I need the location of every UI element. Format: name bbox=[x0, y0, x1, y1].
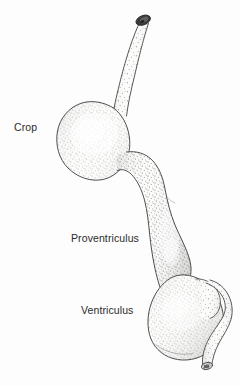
digestive-tract-illustration bbox=[0, 0, 240, 386]
label-ventriculus: Ventriculus bbox=[81, 304, 133, 316]
figure-root: Crop Proventriculus Ventriculus bbox=[0, 0, 240, 386]
label-proventriculus: Proventriculus bbox=[71, 232, 139, 244]
esophagus-cut-end bbox=[134, 13, 152, 27]
label-crop: Crop bbox=[14, 121, 37, 133]
proventriculus-group bbox=[110, 145, 200, 295]
